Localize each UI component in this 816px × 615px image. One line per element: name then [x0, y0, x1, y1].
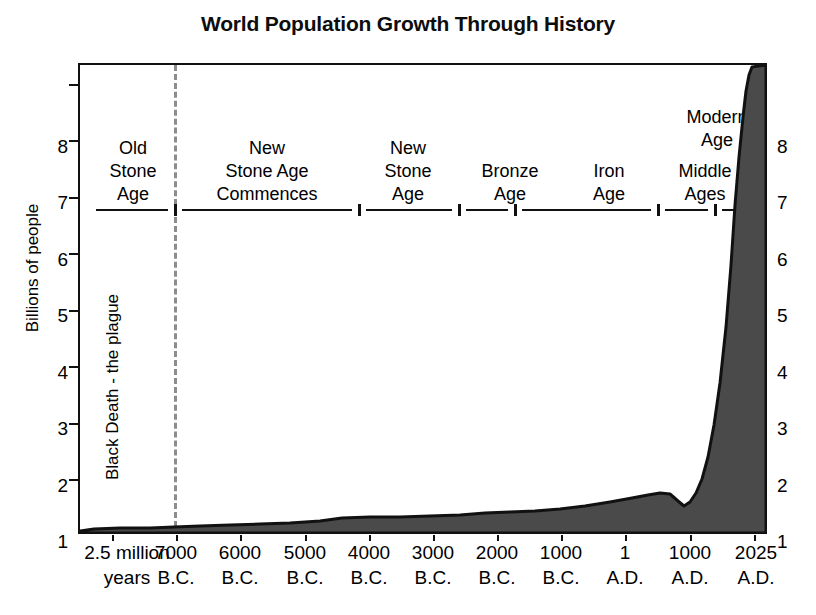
chart-title: World Population Growth Through History: [0, 12, 816, 36]
y-tick-label-right-5: 5: [777, 306, 801, 325]
curve-path: [80, 65, 766, 533]
y-tick-label-8: 8: [44, 137, 68, 156]
y-axis-left-ticks: 8 7 6 5 4 3 2 1: [42, 63, 68, 534]
x-tick-label-5-line1: 4000: [348, 542, 390, 563]
x-tick-label-9-line1: 1: [620, 542, 631, 563]
x-tick-label-7-line1: 2000: [476, 542, 518, 563]
y-tick-label-right-8: 8: [777, 137, 801, 156]
y-axis-title: Billions of people: [23, 153, 43, 383]
y-tick-mark-6: [69, 197, 78, 199]
y-tick-label-right-3: 3: [777, 419, 801, 438]
chart-figure: World Population Growth Through History …: [0, 0, 816, 615]
y-tick-label-right-4: 4: [777, 363, 801, 382]
y-axis-right-ticks: 8 7 6 5 4 3 2 1: [777, 63, 807, 534]
plot-area: OldStoneAge NewStone AgeCommences NewSto…: [78, 63, 767, 534]
y-tick-label-4: 4: [44, 363, 68, 382]
y-tick-mark-7: [69, 140, 78, 142]
y-tick-mark-8: [69, 84, 78, 86]
black-death-annotation: Black Death - the plague: [103, 272, 123, 502]
x-tick-label-10-line1: 1000: [669, 542, 711, 563]
y-tick-label-right-7: 7: [777, 193, 801, 212]
x-tick-label-8-line1: 1000: [540, 542, 582, 563]
y-tick-mark-3: [69, 366, 78, 368]
y-tick-label-right-6: 6: [777, 250, 801, 269]
y-tick-mark-1: [69, 479, 78, 481]
y-tick-label-3: 3: [44, 419, 68, 438]
x-tick-label-6-line1: 3000: [412, 542, 454, 563]
x-tick-label-11-line2: A.D.: [714, 565, 798, 590]
y-tick-mark-2: [69, 423, 78, 425]
y-tick-mark-5: [69, 253, 78, 255]
y-tick-mark-4: [69, 310, 78, 312]
x-axis-tick-labels: 2.5 million years 7000 B.C. 6000 B.C. 50…: [0, 540, 816, 610]
y-tick-label-2: 2: [44, 476, 68, 495]
y-tick-label-right-2: 2: [777, 476, 801, 495]
x-tick-label-11: 2025 A.D.: [714, 540, 798, 590]
population-area-curve: [80, 65, 766, 533]
x-tick-label-3-line1: 6000: [219, 542, 261, 563]
y-tick-label-7: 7: [44, 193, 68, 212]
y-tick-label-5: 5: [44, 306, 68, 325]
y-tick-label-6: 6: [44, 250, 68, 269]
x-tick-label-11-line1: 2025: [735, 542, 777, 563]
x-tick-label-2-line1: 7000: [155, 542, 197, 563]
x-tick-label-4-line1: 5000: [284, 542, 326, 563]
